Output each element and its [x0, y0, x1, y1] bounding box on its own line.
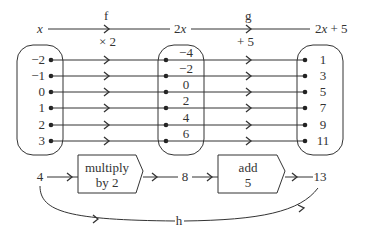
svg-text:2: 2 — [183, 93, 190, 108]
svg-text:3: 3 — [39, 133, 46, 148]
f-label: f — [104, 8, 109, 23]
function-machine-diagram: x f × 2 2x g + 5 2x + 5 −2 −4 1 −1 — [0, 0, 365, 245]
svg-text:11: 11 — [317, 133, 330, 148]
process-output: 13 — [314, 169, 327, 184]
svg-text:5: 5 — [320, 84, 327, 99]
svg-text:1: 1 — [39, 100, 46, 115]
svg-text:7: 7 — [320, 100, 327, 115]
domain-label: x — [36, 21, 43, 36]
process-input: 4 — [37, 169, 44, 184]
svg-text:−2: −2 — [31, 52, 45, 67]
svg-text:−2: −2 — [179, 61, 193, 76]
svg-text:0: 0 — [39, 84, 46, 99]
svg-text:2: 2 — [39, 117, 46, 132]
add-line2: 5 — [245, 175, 252, 190]
svg-text:6: 6 — [183, 126, 190, 141]
svg-text:−1: −1 — [31, 68, 45, 83]
svg-text:9: 9 — [320, 117, 327, 132]
range-label: 2x + 5 — [315, 21, 348, 36]
multiply-line2: by 2 — [96, 175, 119, 190]
h-arrow-head-icon — [298, 205, 304, 212]
svg-text:0: 0 — [183, 77, 190, 92]
svg-text:4: 4 — [183, 110, 190, 125]
g-label: g — [245, 8, 252, 23]
add-line1: add — [239, 160, 258, 175]
row-5: 3 6 11 — [39, 126, 330, 148]
process-intermediate: 8 — [182, 169, 189, 184]
svg-text:1: 1 — [320, 52, 327, 67]
middle-label: 2x — [174, 21, 187, 36]
h-arrow-icon — [93, 215, 98, 223]
g-rule: + 5 — [237, 34, 254, 49]
f-rule: × 2 — [99, 34, 116, 49]
svg-text:−4: −4 — [179, 45, 193, 60]
row-1: −1 −2 3 — [31, 61, 326, 83]
mapping-rows: −2 −4 1 −1 −2 3 0 — [31, 45, 329, 148]
svg-text:3: 3 — [320, 68, 327, 83]
h-curve-left — [40, 186, 175, 221]
h-label: h — [176, 213, 183, 228]
multiply-line1: multiply — [85, 160, 130, 175]
